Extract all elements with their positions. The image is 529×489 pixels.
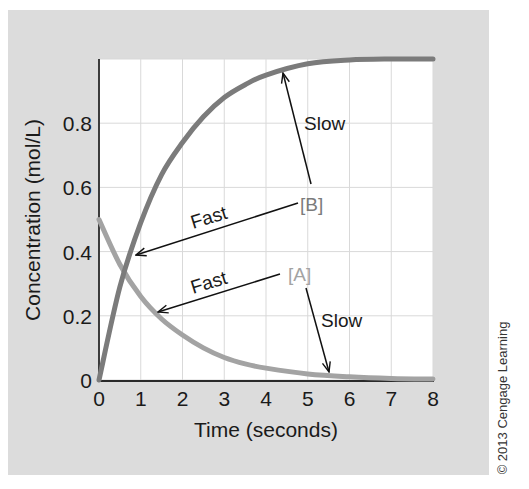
x-tick-label: 8: [427, 387, 439, 410]
series-a-label: [A]: [288, 264, 311, 285]
slow-a-label: Slow: [321, 310, 362, 331]
y-tick-label: 0: [80, 369, 92, 392]
y-tick-label: 0.8: [63, 112, 92, 135]
y-tick-label: 0.2: [63, 305, 92, 328]
y-axis-title: Concentration (mol/L): [21, 119, 44, 321]
concentration-time-chart: 012345678 00.20.40.60.8 Fast Slow Fast S…: [0, 0, 529, 489]
x-tick-label: 7: [385, 387, 397, 410]
x-tick-label: 3: [218, 387, 230, 410]
y-tick-label: 0.6: [63, 176, 92, 199]
x-tick-label: 2: [177, 387, 189, 410]
x-tick-label: 0: [93, 387, 105, 410]
x-tick-labels: 012345678: [93, 387, 439, 410]
x-tick-label: 1: [135, 387, 147, 410]
x-tick-label: 5: [302, 387, 314, 410]
copyright-notice: © 2013 Cengage Learning: [495, 322, 510, 475]
y-tick-labels: 00.20.40.60.8: [63, 112, 93, 392]
series-b-label: [B]: [300, 194, 323, 215]
x-tick-label: 4: [260, 387, 272, 410]
x-tick-label: 6: [344, 387, 356, 410]
x-axis-title: Time (seconds): [194, 418, 338, 441]
slow-b-label: Slow: [304, 113, 345, 134]
y-tick-label: 0.4: [63, 241, 93, 264]
